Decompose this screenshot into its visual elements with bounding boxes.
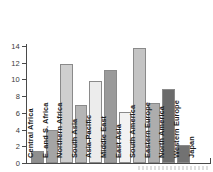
bar [148,103,161,163]
bar [60,64,73,163]
bar [177,145,190,163]
watermark-strip [138,166,210,170]
bars-layer: Central AfricaE. and S. AfricaNorthern A… [0,0,213,172]
bar-chart: 02468101214 Central AfricaE. and S. Afri… [0,0,213,172]
bar [46,130,59,163]
bar [31,151,44,163]
bar [162,89,175,163]
bar [119,112,132,163]
bar [89,81,102,163]
bar [133,48,146,163]
bar [104,70,117,163]
bar [75,105,88,163]
